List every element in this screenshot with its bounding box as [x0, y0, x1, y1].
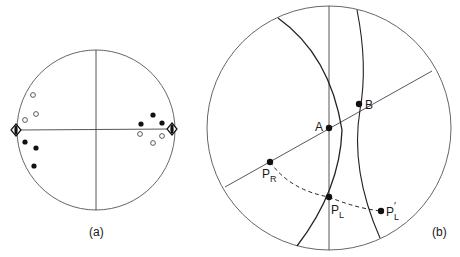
label-PL-prime: P — [386, 205, 394, 219]
label-PL-sub: L — [339, 210, 344, 220]
label-PL-prime-mark: ′ — [394, 201, 396, 212]
great-circle-2 — [357, 10, 380, 238]
label-PL: P — [331, 203, 339, 217]
diamond-marker-right — [167, 123, 177, 135]
diagram-b: A B P R P L P L ′ (b) — [207, 6, 451, 250]
diagram-a: (a) — [11, 50, 177, 239]
diamond-marker-left — [11, 124, 21, 136]
caption-a: (a) — [89, 225, 104, 239]
horizontal-axis-a — [17, 129, 172, 130]
caption-b: (b) — [432, 225, 447, 239]
label-PR: P — [262, 167, 270, 181]
label-B: B — [365, 98, 373, 112]
label-PL-prime-sub: L — [394, 212, 399, 222]
point-PR — [267, 159, 273, 165]
filled-points-right — [138, 112, 164, 126]
open-points-right — [138, 132, 165, 146]
point-A — [326, 125, 332, 131]
label-A: A — [315, 120, 323, 134]
dashed-arc — [270, 162, 381, 211]
point-PL — [326, 194, 332, 200]
point-PL-prime — [378, 208, 384, 214]
point-B — [356, 101, 362, 107]
open-points-left — [23, 93, 39, 123]
label-PR-sub: R — [270, 174, 277, 184]
figure: (a) A B P R P L P L ′ (b) — [0, 0, 460, 257]
